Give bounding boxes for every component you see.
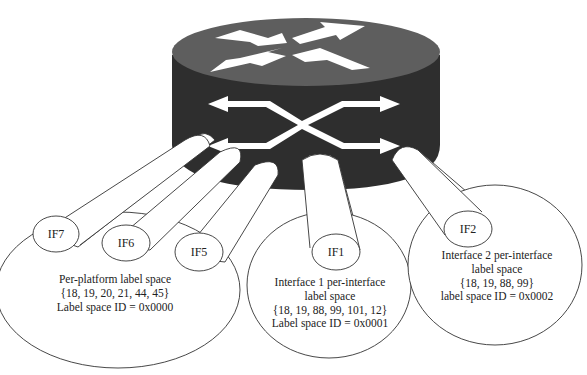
diagram: IF7 IF6 IF5 IF1 IF2 Per-platform label s… — [0, 0, 587, 375]
svg-text:{18, 19, 88, 99}: {18, 19, 88, 99} — [460, 277, 534, 290]
svg-text:IF5: IF5 — [191, 245, 208, 259]
svg-text:IF6: IF6 — [118, 236, 135, 250]
if6: IF6 — [102, 225, 150, 261]
if2: IF2 — [444, 211, 492, 247]
svg-text:Label space ID = 0x0000: Label space ID = 0x0000 — [57, 301, 174, 314]
if1: IF1 — [312, 234, 360, 270]
if7: IF7 — [33, 216, 79, 252]
svg-text:label space ID = 0x0002: label space ID = 0x0002 — [441, 290, 554, 303]
if5: IF5 — [175, 233, 223, 271]
svg-text:label space: label space — [305, 290, 356, 303]
svg-text:Label space ID = 0x0001: Label space ID = 0x0001 — [272, 317, 389, 330]
svg-text:Per-platform label space: Per-platform label space — [59, 273, 171, 286]
svg-text:IF2: IF2 — [460, 222, 477, 236]
svg-text:{18, 19, 20, 21, 44, 45}: {18, 19, 20, 21, 44, 45} — [61, 287, 170, 300]
svg-text:Interface 2 per-interface: Interface 2 per-interface — [442, 249, 553, 262]
svg-text:IF1: IF1 — [328, 245, 345, 259]
svg-text:{18, 19, 88, 99, 101, 12}: {18, 19, 88, 99, 101, 12} — [273, 304, 388, 317]
svg-text:label space: label space — [472, 263, 523, 276]
svg-text:IF7: IF7 — [48, 227, 65, 241]
platform-label-space-text: Per-platform label space {18, 19, 20, 21… — [57, 273, 174, 314]
svg-text:Interface 1 per-interface: Interface 1 per-interface — [275, 276, 386, 289]
